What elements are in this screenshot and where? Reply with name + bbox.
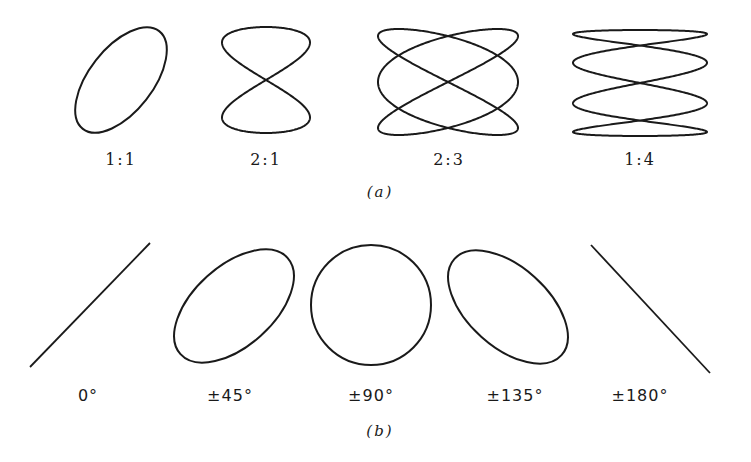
- lissajous-2-1: [222, 27, 310, 133]
- label-phase-90: ±90°: [348, 386, 394, 405]
- label-ratio-1-4: 1:4: [624, 150, 656, 169]
- part-b-label: (b): [366, 422, 393, 440]
- phase-135-ellipse: [428, 229, 589, 385]
- label-phase-45: ±45°: [207, 386, 253, 405]
- phase-180-line: [591, 245, 710, 373]
- lissajous-2-3: [378, 29, 518, 135]
- label-phase-180: ±180°: [612, 386, 669, 405]
- lissajous-1-4: [573, 30, 707, 136]
- phase-90-circle: [311, 245, 431, 365]
- label-phase-0: 0°: [78, 386, 98, 405]
- lissajous-1-1: [58, 11, 185, 148]
- label-ratio-1-1: 1:1: [105, 150, 137, 169]
- phase-45-ellipse: [154, 228, 315, 384]
- part-a-label: (a): [367, 183, 394, 201]
- label-ratio-2-1: 2:1: [250, 150, 282, 169]
- label-phase-135: ±135°: [487, 386, 544, 405]
- phase-0-line: [30, 243, 150, 367]
- label-ratio-2-3: 2:3: [433, 150, 465, 169]
